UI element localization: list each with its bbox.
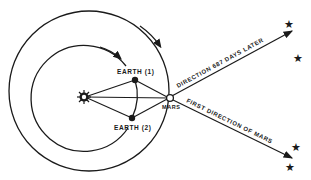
sun-icon [77, 90, 91, 104]
first-direction-label: FIRST DIRECTION OF MARS [186, 98, 274, 145]
star-icon: ★ [284, 18, 294, 31]
star-icon: ★ [285, 161, 295, 174]
mars-label: MARS [162, 104, 181, 110]
star-icon: ★ [291, 141, 301, 154]
mars-orbit [9, 11, 169, 171]
earth-1-label: EARTH (1) [117, 68, 155, 76]
mars-dot [167, 95, 174, 102]
direction-later-label: DIRECTION 687 DAYS LATER [176, 37, 265, 89]
direction-later-arrow [170, 31, 292, 97]
star-icon: ★ [293, 52, 303, 65]
sight-lines [85, 80, 169, 118]
earth-2-dot [129, 115, 135, 121]
earth-2-label: EARTH (2) [114, 124, 152, 132]
earth-1-dot [132, 77, 138, 83]
first-direction-arrow [171, 99, 292, 158]
mars-parallax-diagram: EARTH (1) EARTH (2) MARS DIRECTION 687 D… [0, 0, 311, 180]
